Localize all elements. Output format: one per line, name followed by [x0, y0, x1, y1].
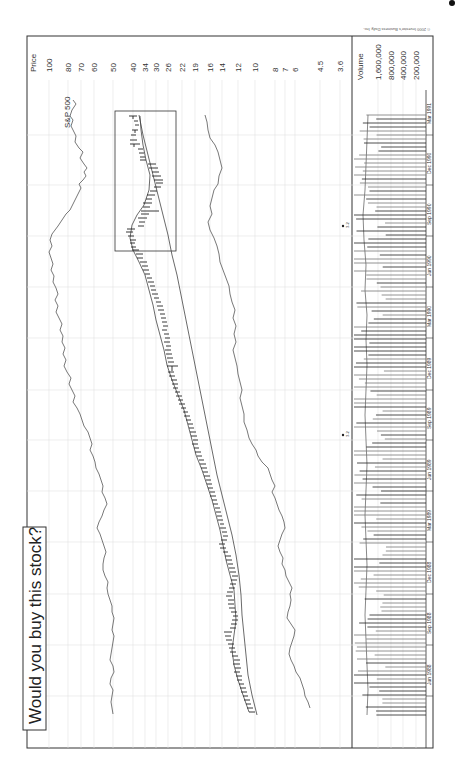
split-marker: 3-2 — [342, 430, 350, 437]
price-tick: 70 — [77, 63, 86, 72]
ma-200-line — [139, 115, 257, 715]
date-tick: Dec 1988 — [426, 561, 432, 583]
price-tick: 19 — [191, 63, 200, 72]
price-tick: 6 — [291, 67, 300, 72]
stock-chart: © 2000 Investor's Business Daily, Inc. P… — [0, 0, 456, 759]
date-tick: Sep 1988 — [426, 612, 432, 634]
date-tick: Jun 1989 — [426, 459, 432, 480]
price-tick: 26 — [164, 63, 173, 72]
price-tick: 80 — [64, 63, 73, 72]
price-axis: Price 100 80 70 60 50 40 34 30 26 22 19 … — [29, 53, 345, 72]
price-axis-title: Price — [29, 53, 38, 72]
date-tick: Jun 1988 — [426, 664, 432, 685]
date-tick: Jun 1990 — [426, 255, 432, 276]
volume-axis: Volume 1,600,000 800,000 400,000 200,000 — [356, 44, 421, 80]
volume-tick: 800,000 — [387, 51, 396, 80]
price-tick: 34 — [141, 63, 150, 72]
date-tick: Mar 1990 — [426, 306, 432, 327]
volume-ma-line — [363, 115, 368, 715]
price-tick: 30 — [152, 63, 161, 72]
price-tick: 16 — [206, 63, 215, 72]
price-tick: 40 — [129, 63, 138, 72]
corner-mark — [449, 0, 455, 6]
price-tick: 10 — [251, 63, 260, 72]
split-marker-label: 3-2 — [345, 430, 350, 437]
price-tick: 12 — [234, 63, 243, 72]
date-tick: Mar 1991 — [426, 103, 432, 124]
date-tick: Dec 1990 — [426, 152, 432, 174]
date-axis: Mar 1991 Dec 1990 Sep 1990 Jun 1990 Mar … — [426, 103, 433, 696]
split-marker: 3-2 — [342, 221, 350, 228]
sp500-series: S&P 500 — [49, 96, 114, 714]
sp500-label: S&P 500 — [63, 96, 72, 128]
chart-title: Would you buy this stock? — [26, 527, 45, 724]
date-tick: Dec 1989 — [426, 357, 432, 379]
price-tick: 14 — [218, 63, 227, 72]
date-tick: Mar 1989 — [426, 510, 432, 531]
price-tick: 4.5 — [316, 60, 325, 72]
volume-tick: 400,000 — [399, 51, 408, 80]
volume-axis-title: Volume — [356, 53, 365, 80]
volume-tick: 1,600,000 — [374, 44, 383, 80]
price-tick: 8 — [271, 67, 280, 72]
ma-50-line — [130, 116, 249, 712]
price-tick: 100 — [45, 58, 54, 72]
price-tick: 7 — [281, 67, 290, 72]
price-tick: 60 — [90, 63, 99, 72]
split-marker-label: 3-2 — [345, 221, 350, 228]
price-tick: 22 — [178, 63, 187, 72]
relative-strength-line — [205, 115, 310, 708]
price-tick: 3.6 — [336, 60, 345, 72]
date-tick: Sep 1989 — [426, 407, 432, 429]
chart-title-box: Would you buy this stock? — [23, 527, 46, 730]
copyright-text: © 2000 Investor's Business Daily, Inc. — [363, 27, 430, 32]
date-tick: Sep 1990 — [426, 203, 432, 225]
volume-tick: 200,000 — [412, 51, 421, 80]
price-tick: 50 — [109, 63, 118, 72]
